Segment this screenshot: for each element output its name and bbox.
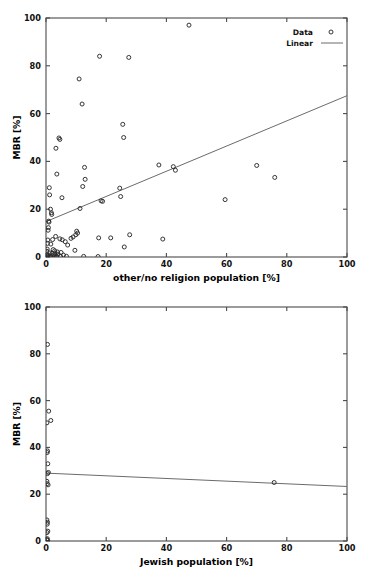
data-point [82, 254, 86, 258]
x-tick-label: 0 [43, 259, 49, 269]
data-point [273, 175, 277, 179]
chart-panel-bottom: 020406080100020406080100Jewish populatio… [0, 292, 365, 585]
data-point [119, 195, 123, 199]
data-layer [45, 23, 347, 259]
data-point [272, 481, 276, 485]
y-tick-label: 60 [30, 396, 42, 406]
regression-line [46, 473, 347, 486]
data-point [161, 237, 165, 241]
y-tick-label: 100 [24, 13, 41, 23]
data-point [54, 146, 58, 150]
scatter-plot-bottom: 020406080100020406080100Jewish populatio… [0, 292, 365, 585]
data-point [66, 243, 70, 247]
y-tick-label: 20 [30, 204, 42, 214]
data-point [47, 409, 51, 413]
data-point [121, 122, 125, 126]
data-point [60, 196, 64, 200]
data-point [173, 168, 177, 172]
x-tick-label: 80 [281, 259, 293, 269]
data-point [49, 418, 53, 422]
data-point [98, 54, 102, 58]
data-point [77, 77, 81, 81]
y-tick-label: 40 [30, 156, 42, 166]
scatter-plot-top: 020406080100020406080100other/no religio… [0, 0, 365, 292]
plot-frame [46, 18, 347, 257]
data-point [187, 23, 191, 27]
regression-line [46, 96, 347, 222]
legend-label: Linear [286, 39, 313, 48]
y-axis-title: MBR [%] [11, 402, 22, 446]
y-tick-label: 40 [30, 442, 42, 452]
data-point [97, 236, 101, 240]
x-tick-label: 60 [221, 543, 233, 553]
plot-frame [46, 307, 347, 541]
x-tick-label: 80 [281, 543, 293, 553]
data-point [51, 238, 55, 242]
x-tick-label: 20 [100, 259, 112, 269]
x-axis-title: Jewish population [%] [139, 556, 253, 567]
data-point [223, 198, 227, 202]
x-tick-label: 0 [43, 543, 49, 553]
data-point [122, 245, 126, 249]
y-tick-label: 20 [30, 489, 42, 499]
x-tick-label: 100 [338, 259, 355, 269]
y-axis-title: MBR [%] [11, 115, 22, 159]
legend-label: Data [293, 28, 313, 37]
data-point [122, 136, 126, 140]
chart-panel-top: 020406080100020406080100other/no religio… [0, 0, 365, 292]
data-point [48, 193, 52, 197]
x-tick-label: 20 [100, 543, 112, 553]
y-tick-label: 60 [30, 109, 42, 119]
x-tick-label: 60 [221, 259, 233, 269]
data-point [128, 233, 132, 237]
y-tick-label: 0 [35, 252, 41, 262]
data-layer [45, 342, 347, 542]
data-point [255, 163, 259, 167]
data-point [157, 163, 161, 167]
x-tick-label: 40 [161, 543, 173, 553]
y-tick-label: 80 [30, 61, 42, 71]
data-point [83, 177, 87, 181]
data-point [73, 248, 77, 252]
data-point [55, 172, 59, 176]
x-tick-label: 40 [161, 259, 173, 269]
data-point [118, 186, 122, 190]
y-tick-label: 80 [30, 349, 42, 359]
legend: DataLinear [286, 28, 343, 48]
data-point [81, 184, 85, 188]
data-point [46, 228, 50, 232]
data-point [109, 236, 113, 240]
data-point [83, 165, 87, 169]
x-axis-title: other/no religion population [%] [113, 272, 280, 283]
x-tick-label: 100 [338, 543, 355, 553]
y-tick-label: 0 [35, 536, 41, 546]
data-point [80, 102, 84, 106]
data-point [127, 55, 131, 59]
data-point [47, 186, 51, 190]
legend-marker-icon [329, 30, 333, 34]
figure-container: 020406080100020406080100other/no religio… [0, 0, 365, 585]
y-tick-label: 100 [24, 302, 41, 312]
